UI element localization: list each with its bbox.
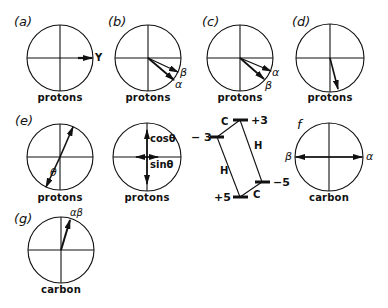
circle-a xyxy=(27,25,93,91)
circle-d xyxy=(296,24,364,92)
circle-e xyxy=(27,124,93,190)
level-plus3: +3 xyxy=(251,115,268,126)
caption-a: protons xyxy=(37,93,82,103)
transition-C-bottom: C xyxy=(253,190,260,200)
level-minus3: − 3 xyxy=(191,132,212,143)
component-label-cos: cosθ xyxy=(150,134,176,144)
vector-label-beta-b: β xyxy=(180,67,187,78)
level-minus5: −5 xyxy=(273,177,290,188)
caption-f: carbon xyxy=(309,193,349,203)
component-label-sin: sinθ xyxy=(150,160,173,170)
circle-b xyxy=(115,25,181,91)
vector-label-alphabeta-g: αβ xyxy=(70,208,83,218)
transition-C-top: C xyxy=(221,117,228,127)
figure-drawing xyxy=(0,0,388,308)
panel-label-d: (d) xyxy=(292,15,310,28)
vector-label-alpha-b: α xyxy=(175,79,182,90)
circle-g xyxy=(28,217,94,283)
caption-g: carbon xyxy=(41,285,81,295)
vector-label-alpha-f: α xyxy=(366,151,373,162)
caption-e: protons xyxy=(37,193,82,203)
panel-label-e: (e) xyxy=(15,114,33,127)
caption-d: protons xyxy=(307,93,352,103)
vector-label-alpha-c: α xyxy=(272,67,279,78)
level-plus5: +5 xyxy=(214,192,231,203)
energy-level-diagram xyxy=(210,120,270,197)
panel-label-c: (c) xyxy=(202,15,219,28)
vector-label-beta-f: β xyxy=(285,151,292,162)
caption-components: protons xyxy=(124,193,169,203)
circle-c xyxy=(207,25,273,91)
caption-b: protons xyxy=(125,93,170,103)
vector-label-Y: Y xyxy=(95,53,102,63)
caption-c: protons xyxy=(217,93,262,103)
panel-label-a: (a) xyxy=(14,15,32,28)
panel-label-g: (g) xyxy=(14,212,32,225)
transition-H-left: H xyxy=(220,166,228,176)
transition-H-right: H xyxy=(254,141,262,151)
circle-f xyxy=(295,123,363,191)
figure-canvas: (a) (b) (c) (d) (e) f (g) protons proton… xyxy=(0,0,388,308)
angle-label-theta: θ xyxy=(50,167,57,178)
panel-label-f: f xyxy=(297,118,302,131)
panel-label-b: (b) xyxy=(108,15,126,28)
vector-label-beta-c: β xyxy=(265,80,272,91)
